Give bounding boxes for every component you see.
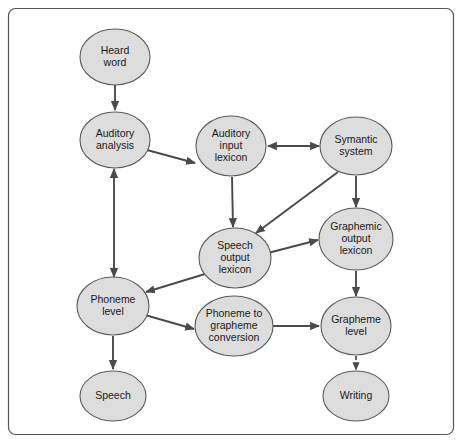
node-heard_word[interactable]: Heardword <box>80 29 150 85</box>
diagram-canvas: HeardwordAuditoryanalysisAuditoryinputle… <box>0 0 462 443</box>
node-shape-phoneme_level <box>77 277 149 335</box>
node-graphemic_output_lexicon[interactable]: Graphemicoutputlexicon <box>319 208 393 270</box>
edge-auditory_input_lexicon-to-speech_output_lexicon <box>232 177 233 227</box>
node-writing[interactable]: Writing <box>323 371 389 421</box>
node-auditory_analysis[interactable]: Auditoryanalysis <box>80 112 150 168</box>
language-processing-diagram: HeardwordAuditoryanalysisAuditoryinputle… <box>0 0 462 443</box>
node-shape-speech <box>80 371 146 421</box>
edge-auditory_analysis-to-auditory_input_lexicon <box>147 150 195 163</box>
node-shape-graphemic_output_lexicon <box>319 208 393 270</box>
node-shape-auditory_analysis <box>80 112 150 168</box>
node-shape-heard_word <box>80 29 150 85</box>
node-grapheme_level[interactable]: Graphemelevel <box>321 297 391 355</box>
edge-speech_output_lexicon-to-phoneme_level <box>146 274 205 292</box>
node-shape-grapheme_level <box>321 297 391 355</box>
node-auditory_input_lexicon[interactable]: Auditoryinputlexicon <box>196 116 266 176</box>
node-symantic_system[interactable]: Symanticsystem <box>320 117 392 175</box>
node-phoneme_level[interactable]: Phonemelevel <box>77 277 149 335</box>
node-shape-writing <box>323 371 389 421</box>
node-speech[interactable]: Speech <box>80 371 146 421</box>
node-shape-symantic_system <box>320 117 392 175</box>
node-shape-phoneme_to_grapheme <box>195 296 273 356</box>
node-speech_output_lexicon[interactable]: Speechoutputlexicon <box>199 228 271 288</box>
edge-phoneme_level-to-phoneme_to_grapheme <box>145 315 194 329</box>
edge-speech_output_lexicon-to-graphemic_output_lexicon <box>268 240 318 253</box>
node-shape-auditory_input_lexicon <box>196 116 266 176</box>
node-phoneme_to_grapheme[interactable]: Phoneme tographemeconversion <box>195 296 273 356</box>
nodes-layer: HeardwordAuditoryanalysisAuditoryinputle… <box>77 29 393 421</box>
node-shape-speech_output_lexicon <box>199 228 271 288</box>
